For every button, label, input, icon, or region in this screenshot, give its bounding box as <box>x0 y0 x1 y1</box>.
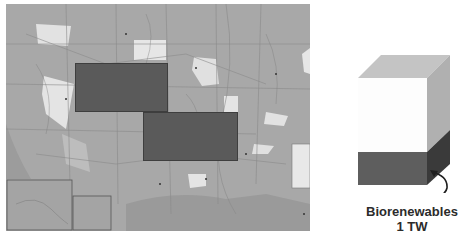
energy-cube <box>350 48 460 193</box>
land-area-overlay-1 <box>75 63 168 112</box>
biorenewables-label: Biorenewables 1 TW <box>362 204 462 234</box>
label-line-1: Biorenewables <box>362 204 462 219</box>
us-map <box>6 4 310 231</box>
label-line-2: 1 TW <box>362 219 462 234</box>
cube-front-face <box>358 78 427 152</box>
cube-front-fill <box>358 152 427 185</box>
land-area-overlay-2 <box>143 112 238 161</box>
